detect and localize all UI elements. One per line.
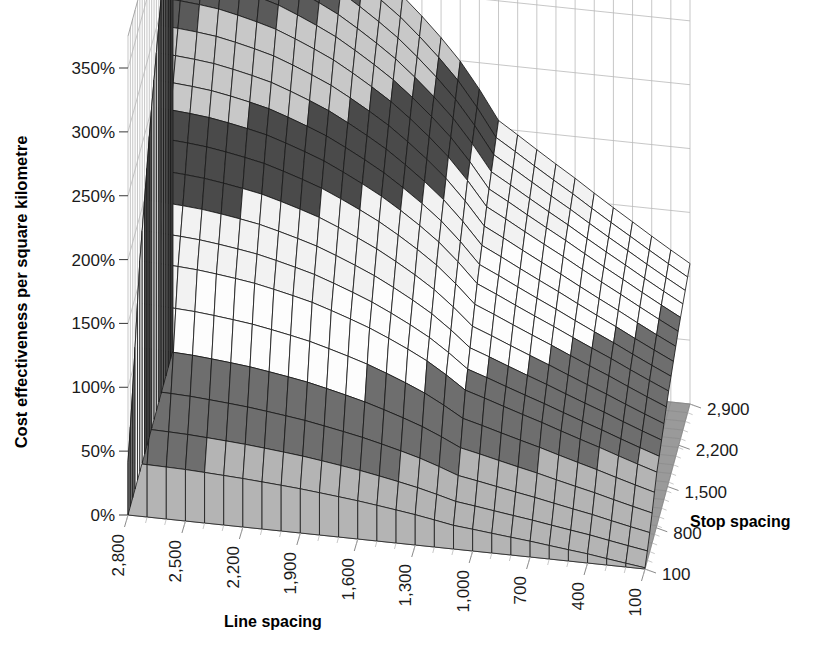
surface-cell bbox=[492, 511, 514, 537]
surface-cell bbox=[236, 249, 258, 283]
surface-cell bbox=[243, 157, 265, 194]
surface-cell bbox=[343, 395, 365, 437]
z-axis-minor-tick bbox=[652, 543, 657, 545]
surface-cell bbox=[233, 279, 255, 325]
surface-cell bbox=[207, 118, 229, 152]
surface-cell bbox=[190, 87, 212, 118]
z-axis-tick-label: 2,200 bbox=[696, 441, 739, 460]
x-axis-minor-tick bbox=[203, 523, 205, 529]
z-axis-tick-label: 2,900 bbox=[707, 400, 750, 419]
surface-cell bbox=[202, 178, 224, 214]
x-axis-minor-tick bbox=[433, 547, 435, 553]
y-axis-tick-label: 100% bbox=[72, 378, 115, 397]
surface-cell bbox=[214, 274, 236, 320]
x-axis-minor-tick bbox=[280, 531, 282, 537]
z-axis-minor-tick bbox=[688, 413, 693, 415]
skirt-front bbox=[205, 472, 224, 525]
surface-cell bbox=[245, 407, 267, 448]
surface-cell bbox=[169, 394, 191, 435]
surface-cell bbox=[204, 147, 226, 183]
z-axis-minor-tick bbox=[666, 491, 671, 493]
surface-cell bbox=[173, 308, 195, 355]
surface-cell bbox=[195, 270, 217, 316]
y-axis-title: Cost effectiveness per square kilometre bbox=[12, 136, 30, 449]
skirt-front bbox=[339, 497, 358, 539]
x-axis-tick-label: 1,300 bbox=[396, 564, 415, 607]
surface-cell bbox=[269, 330, 291, 377]
z-axis-tick bbox=[656, 528, 667, 532]
x-axis-tick-label: 700 bbox=[511, 576, 530, 604]
x-axis-tick-label: 1,900 bbox=[281, 552, 300, 595]
surface-cell bbox=[205, 438, 227, 476]
surface-cell bbox=[341, 432, 363, 471]
surface-cell bbox=[252, 283, 274, 329]
y-axis-tick-label: 150% bbox=[72, 314, 115, 333]
surface-cell bbox=[197, 5, 219, 37]
z-axis-minor-tick bbox=[683, 430, 688, 432]
skirt-front bbox=[243, 479, 262, 529]
surface-cell bbox=[185, 435, 207, 473]
surface-cell bbox=[358, 471, 380, 506]
surface-cell bbox=[473, 506, 495, 533]
surface-cell bbox=[511, 516, 533, 542]
x-axis-tick-label: 1,000 bbox=[454, 570, 473, 613]
skirt-front bbox=[185, 470, 204, 523]
skirt-left bbox=[171, 0, 173, 359]
surface-cell bbox=[456, 476, 478, 506]
surface-cell bbox=[188, 396, 210, 437]
y-axis-tick-label: 50% bbox=[81, 442, 115, 461]
z-axis-minor-tick bbox=[673, 465, 678, 467]
surface-cell bbox=[267, 372, 289, 416]
surface-cell bbox=[190, 355, 212, 399]
skirt-front bbox=[224, 475, 243, 527]
skirt-front bbox=[300, 489, 319, 535]
x-axis-minor-tick bbox=[624, 567, 626, 573]
surface-cell bbox=[454, 501, 476, 529]
surface-cell bbox=[231, 320, 253, 367]
surface-cell bbox=[360, 437, 382, 476]
surface-cell bbox=[185, 143, 207, 178]
z-axis-minor-tick bbox=[681, 439, 686, 441]
skirt-front bbox=[358, 501, 377, 541]
z-axis-minor-tick bbox=[676, 456, 681, 458]
skirt-front bbox=[511, 537, 530, 557]
x-axis-minor-tick bbox=[222, 525, 224, 531]
surface-cell bbox=[475, 481, 497, 511]
surface-cell bbox=[183, 175, 205, 210]
surface-cell bbox=[243, 444, 265, 482]
surface-cell bbox=[322, 426, 344, 466]
skirt-front bbox=[415, 515, 434, 547]
surface-cell bbox=[192, 59, 214, 90]
skirt-front bbox=[377, 505, 396, 543]
skirt-front bbox=[434, 520, 453, 549]
z-axis-minor-tick bbox=[647, 560, 652, 562]
surface-cell bbox=[171, 352, 193, 396]
surface-cell bbox=[195, 32, 217, 64]
x-axis-minor-tick bbox=[567, 561, 569, 567]
surface-cell bbox=[319, 461, 341, 497]
surface-cell bbox=[327, 349, 349, 395]
z-axis-minor-tick bbox=[669, 482, 674, 484]
skirt-front bbox=[166, 467, 185, 521]
surface-cell bbox=[212, 316, 234, 363]
skirt-front bbox=[262, 482, 281, 531]
surface-cell bbox=[281, 452, 303, 489]
x-axis-minor-tick bbox=[605, 565, 607, 571]
x-axis-tick-label: 1,600 bbox=[339, 558, 358, 601]
surface-cell bbox=[219, 214, 241, 249]
surface-cell bbox=[216, 244, 238, 278]
x-axis-minor-tick bbox=[490, 553, 492, 559]
x-axis-minor-tick bbox=[318, 535, 320, 541]
z-axis-minor-tick bbox=[650, 552, 655, 554]
y-axis-tick-label: 250% bbox=[72, 187, 115, 206]
z-axis-minor-tick bbox=[645, 569, 650, 571]
x-axis-tick-label: 2,200 bbox=[224, 546, 243, 589]
surface-plot-3d: 0%50%100%150%200%250%300%350%Cost effect… bbox=[0, 0, 827, 647]
surface-cell bbox=[226, 403, 248, 444]
skirt-front bbox=[281, 485, 300, 533]
surface-cell bbox=[303, 420, 325, 460]
surface-cell bbox=[197, 240, 219, 274]
surface-cell bbox=[181, 206, 203, 240]
surface-cell bbox=[339, 466, 361, 501]
surface-cell bbox=[305, 382, 327, 426]
